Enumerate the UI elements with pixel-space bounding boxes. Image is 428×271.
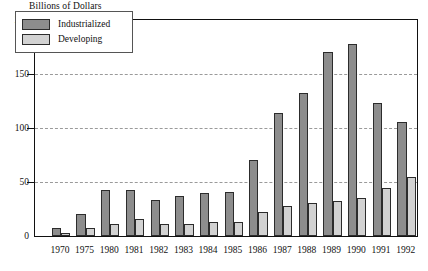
chart-legend: Industrialized Developing [15, 11, 133, 53]
bar-industrialized-1970 [52, 228, 61, 236]
bar-developing-1975 [86, 228, 95, 236]
bar-developing-1970 [61, 233, 70, 236]
y-tick-mark [27, 128, 34, 129]
bar-developing-1987 [283, 206, 292, 236]
x-tick-label: 1983 [174, 245, 193, 255]
bar-industrialized-1975 [76, 214, 85, 236]
bar-developing-1989 [333, 201, 342, 236]
x-tick-label: 1981 [125, 245, 144, 255]
bar-industrialized-1986 [249, 160, 258, 236]
bar-developing-1984 [209, 222, 218, 236]
bar-developing-1991 [382, 188, 391, 236]
bar-group [175, 196, 193, 236]
legend-item-developing: Developing [22, 32, 126, 47]
bar-group [126, 190, 144, 236]
bar-developing-1992 [407, 177, 416, 236]
legend-label-industrialized: Industrialized [58, 19, 110, 30]
x-tick-label: 1989 [322, 245, 341, 255]
bar-developing-1982 [160, 224, 169, 236]
bar-industrialized-1982 [151, 200, 160, 236]
x-tick-label: 1970 [50, 245, 69, 255]
legend-item-industrialized: Industrialized [22, 17, 126, 32]
x-tick-label: 1984 [199, 245, 218, 255]
bar-industrialized-1984 [200, 193, 209, 236]
bar-group [249, 160, 267, 236]
bar-group [373, 103, 391, 236]
bar-developing-1985 [234, 222, 243, 236]
bar-industrialized-1991 [373, 103, 382, 236]
bar-group [299, 93, 317, 236]
legend-swatch-industrialized-icon [22, 19, 50, 30]
bar-group [101, 190, 119, 236]
x-tick-label: 1985 [223, 245, 242, 255]
bar-developing-1983 [184, 224, 193, 236]
bar-industrialized-1990 [348, 44, 357, 236]
y-tick-mark [27, 182, 34, 183]
x-tick-label: 1975 [75, 245, 94, 255]
bar-industrialized-1992 [397, 122, 406, 236]
y-tick-label: 0 [3, 231, 29, 241]
legend-label-developing: Developing [58, 34, 102, 45]
x-tick-label: 1992 [396, 245, 415, 255]
x-tick-label: 1986 [248, 245, 267, 255]
bar-group [225, 192, 243, 236]
bar-industrialized-1987 [274, 113, 283, 236]
bar-industrialized-1989 [323, 52, 332, 236]
x-tick-label: 1982 [149, 245, 168, 255]
bar-group [52, 228, 70, 236]
y-axis-title: Billions of Dollars [29, 1, 102, 11]
bar-industrialized-1985 [225, 192, 234, 236]
bar-developing-1980 [110, 224, 119, 236]
bar-group [151, 200, 169, 236]
bar-group [323, 52, 341, 236]
bar-industrialized-1988 [299, 93, 308, 236]
x-tick-label: 1988 [297, 245, 316, 255]
bar-group [274, 113, 292, 236]
y-tick-mark [27, 74, 34, 75]
x-tick-label: 1990 [347, 245, 366, 255]
bar-group [397, 122, 415, 236]
legend-swatch-developing-icon [22, 34, 50, 45]
bar-developing-1988 [308, 203, 317, 236]
y-tick-label: 100 [3, 123, 29, 133]
y-tick-label: 50 [3, 177, 29, 187]
bar-industrialized-1981 [126, 190, 135, 236]
bar-industrialized-1983 [175, 196, 184, 236]
x-tick-label: 1980 [100, 245, 119, 255]
bar-developing-1986 [258, 212, 267, 236]
x-tick-label: 1987 [273, 245, 292, 255]
chart-root: Billions of Dollars 050100150200 1970197… [0, 0, 428, 271]
bar-industrialized-1980 [101, 190, 110, 236]
bar-group [76, 214, 94, 236]
bar-group [200, 193, 218, 236]
bar-developing-1990 [357, 198, 366, 236]
x-tick-label: 1991 [371, 245, 390, 255]
bar-developing-1981 [135, 219, 144, 236]
y-tick-label: 150 [3, 69, 29, 79]
bar-group [348, 44, 366, 236]
